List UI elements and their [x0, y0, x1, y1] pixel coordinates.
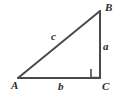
- side-c-line: [18, 11, 100, 78]
- side-label-c: c: [51, 31, 56, 42]
- side-label-b: b: [58, 81, 64, 92]
- right-angle-marker-icon: [91, 69, 99, 78]
- side-label-a: a: [103, 41, 109, 52]
- vertex-label-c: C: [102, 81, 109, 92]
- right-triangle-figure: A B C a b c: [0, 0, 122, 95]
- vertex-label-b: B: [105, 2, 112, 13]
- vertex-label-a: A: [11, 80, 18, 91]
